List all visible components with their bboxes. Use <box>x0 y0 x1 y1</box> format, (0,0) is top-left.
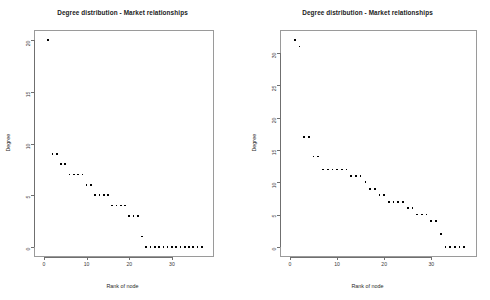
data-point <box>77 174 79 176</box>
y-tick-label-right: 5 <box>272 215 277 224</box>
data-point <box>426 214 428 216</box>
data-point <box>107 194 109 196</box>
data-point <box>124 205 126 207</box>
data-point <box>322 169 324 171</box>
data-point <box>128 215 130 217</box>
data-point <box>175 246 177 248</box>
x-tick-left <box>172 257 173 260</box>
data-point <box>459 246 461 248</box>
data-point <box>188 246 190 248</box>
data-point <box>141 236 143 238</box>
y-axis-title-right: Degree <box>252 128 257 158</box>
data-point <box>86 184 88 186</box>
data-point <box>94 194 96 196</box>
plot-panel-right: Degree distribution - Market relationshi… <box>245 0 490 300</box>
y-tick-label-right: 0 <box>272 247 277 256</box>
data-point <box>192 246 194 248</box>
data-point <box>137 215 139 217</box>
data-point <box>167 246 169 248</box>
data-point <box>64 163 66 165</box>
data-point <box>158 246 160 248</box>
x-tick-label-left: 30 <box>164 262 180 267</box>
data-point <box>180 246 182 248</box>
data-point <box>116 205 118 207</box>
x-tick-label-right: 30 <box>423 262 439 267</box>
data-point <box>412 207 414 209</box>
figure-panels: Degree distribution - Market relationshi… <box>0 0 490 300</box>
y-tick-label-right: 15 <box>272 150 277 159</box>
y-tick-label-left: 20 <box>26 40 31 49</box>
data-point <box>374 188 376 190</box>
data-point <box>82 174 84 176</box>
y-axis-line-left <box>34 40 35 247</box>
data-point <box>430 220 432 222</box>
data-point <box>90 184 92 186</box>
y-tick-label-left: 5 <box>26 195 31 204</box>
data-point <box>332 169 334 171</box>
data-point <box>355 175 357 177</box>
data-point <box>184 246 186 248</box>
data-point <box>201 246 203 248</box>
data-point <box>369 188 371 190</box>
data-point <box>407 207 409 209</box>
plot-area-right: 0510152025300102030 <box>245 0 490 300</box>
data-point <box>383 194 385 196</box>
y-tick-label-right: 20 <box>272 118 277 127</box>
y-tick-label-left: 0 <box>26 247 31 256</box>
x-tick-right <box>431 257 432 260</box>
data-point <box>421 214 423 216</box>
data-point <box>397 201 399 203</box>
data-point <box>341 169 343 171</box>
data-point <box>73 174 75 176</box>
data-point <box>111 205 113 207</box>
data-point <box>346 169 348 171</box>
data-point <box>388 201 390 203</box>
data-point <box>449 246 451 248</box>
data-point <box>69 174 71 176</box>
data-point <box>154 246 156 248</box>
data-point <box>402 201 404 203</box>
data-point <box>336 169 338 171</box>
y-tick-label-right: 10 <box>272 182 277 191</box>
data-point <box>145 246 147 248</box>
data-point <box>463 246 465 248</box>
data-point <box>303 136 305 138</box>
x-tick-label-right: 0 <box>282 262 298 267</box>
y-tick-label-right: 25 <box>272 85 277 94</box>
y-axis-title-left: Degree <box>6 128 11 158</box>
data-point <box>56 153 58 155</box>
data-point <box>317 156 319 158</box>
data-point <box>445 246 447 248</box>
x-axis-line-left <box>44 257 172 258</box>
plot-area-left: 051015200102030 <box>0 0 245 300</box>
data-point <box>60 163 62 165</box>
data-point <box>133 215 135 217</box>
x-tick-label-left: 0 <box>36 262 52 267</box>
data-point <box>197 246 199 248</box>
data-point <box>47 39 49 41</box>
data-point <box>150 246 152 248</box>
data-point <box>365 181 367 183</box>
data-point <box>454 246 456 248</box>
data-point <box>99 194 101 196</box>
data-point <box>163 246 165 248</box>
y-tick-label-right: 30 <box>272 53 277 62</box>
data-point <box>393 201 395 203</box>
data-point <box>360 175 362 177</box>
x-axis-line-right <box>290 257 431 258</box>
x-tick-label-right: 20 <box>376 262 392 267</box>
data-point <box>299 46 301 48</box>
data-point <box>435 220 437 222</box>
data-point <box>294 39 296 41</box>
x-tick-label-left: 20 <box>121 262 137 267</box>
data-point <box>416 214 418 216</box>
data-point <box>379 194 381 196</box>
data-point <box>327 169 329 171</box>
x-tick-label-right: 10 <box>329 262 345 267</box>
x-tick-label-left: 10 <box>79 262 95 267</box>
y-tick-label-left: 10 <box>26 144 31 153</box>
data-point <box>52 153 54 155</box>
plot-panel-left: Degree distribution - Market relationshi… <box>0 0 245 300</box>
x-axis-title-left: Rank of node <box>0 284 245 289</box>
data-point <box>103 194 105 196</box>
